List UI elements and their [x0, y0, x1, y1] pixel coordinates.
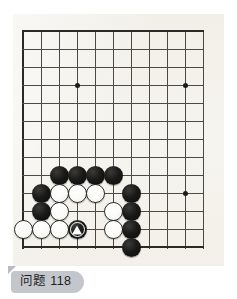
- stone-white[interactable]: [50, 202, 69, 221]
- stone-white[interactable]: [50, 220, 69, 239]
- grid-line-horizontal: [22, 121, 204, 122]
- go-problem-figure: 问题 118: [0, 0, 237, 299]
- grid-line-horizontal: [22, 67, 204, 68]
- grid-line-horizontal: [22, 30, 204, 32]
- stone-black[interactable]: [122, 238, 141, 257]
- stone-black[interactable]: [122, 220, 141, 239]
- stone-black[interactable]: [86, 166, 105, 185]
- stone-white[interactable]: [104, 220, 123, 239]
- grid-line-vertical: [149, 31, 150, 249]
- grid-line-horizontal: [22, 85, 204, 86]
- stone-white[interactable]: [50, 184, 69, 203]
- stone-black[interactable]: [50, 166, 69, 185]
- stone-black[interactable]: [32, 202, 51, 221]
- stone-white[interactable]: [68, 184, 87, 203]
- grid-line-horizontal: [22, 139, 204, 140]
- stone-black[interactable]: [122, 202, 141, 221]
- grid-line-vertical: [77, 31, 78, 249]
- grid-line-vertical: [95, 31, 96, 249]
- stone-white[interactable]: [86, 184, 105, 203]
- star-point: [75, 83, 80, 88]
- stone-black[interactable]: [122, 184, 141, 203]
- grid-line-horizontal: [22, 157, 204, 158]
- grid-line-vertical: [22, 31, 24, 249]
- grid-line-horizontal: [22, 246, 204, 248]
- go-board[interactable]: [0, 0, 237, 299]
- triangle-marker-icon: [72, 225, 82, 234]
- stone-black[interactable]: [104, 166, 123, 185]
- grid-line-horizontal: [22, 49, 204, 50]
- stone-white[interactable]: [32, 220, 51, 239]
- stone-white[interactable]: [104, 202, 123, 221]
- stone-white[interactable]: [14, 220, 33, 239]
- star-point: [183, 191, 188, 196]
- grid-line-vertical: [167, 31, 168, 249]
- grid-line-vertical: [203, 31, 204, 249]
- stone-black[interactable]: [32, 184, 51, 203]
- grid-line-vertical: [185, 31, 186, 249]
- problem-label: 问题 118: [11, 271, 84, 293]
- grid-line-horizontal: [22, 103, 204, 104]
- stone-black[interactable]: [68, 166, 87, 185]
- stone-black-marked-triangle[interactable]: [68, 220, 87, 239]
- star-point: [183, 83, 188, 88]
- caption-container: 问题 118: [8, 266, 237, 299]
